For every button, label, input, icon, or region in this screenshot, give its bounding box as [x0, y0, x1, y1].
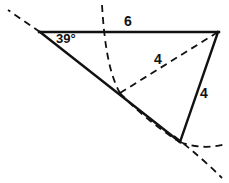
upper-construction-arc-path [102, 5, 120, 93]
figure-canvas [0, 0, 229, 183]
angle-label: 39° [56, 32, 76, 45]
top-side-length-label: 6 [124, 14, 132, 28]
right-side-length-label: 4 [200, 86, 208, 100]
cevian-line [120, 32, 218, 93]
left-side-line [40, 32, 180, 142]
exterior-ray-line [8, 10, 40, 32]
geometry-figure: 39° 6 4 4 [0, 0, 229, 183]
cevian-length-label: 4 [154, 52, 162, 66]
right-side-line [180, 32, 218, 142]
